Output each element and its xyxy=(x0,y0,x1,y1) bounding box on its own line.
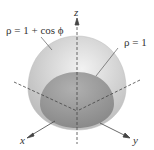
z-axis-arrow xyxy=(75,18,79,25)
cardioid-label: ρ = 1 + cos ϕ xyxy=(6,24,64,36)
sphere-label: ρ = 1 xyxy=(124,36,147,48)
z-axis-label: z xyxy=(74,6,78,18)
y-axis-arrow xyxy=(123,133,130,138)
y-axis-label: y xyxy=(133,134,138,146)
x-axis-label: x xyxy=(20,134,25,146)
diagram-canvas xyxy=(0,0,154,150)
x-axis-arrow xyxy=(27,133,34,138)
x-axis xyxy=(30,121,55,136)
y-axis xyxy=(100,123,126,136)
